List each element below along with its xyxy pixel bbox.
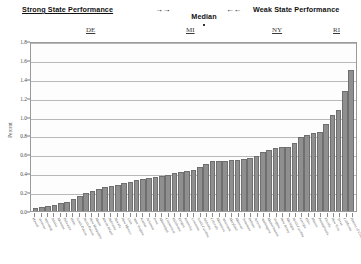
- bar: [71, 199, 77, 211]
- bar: [273, 148, 279, 211]
- x-axis-tick-label: Mississippi: [159, 217, 165, 264]
- y-axis-tick-label: 1.2: [20, 96, 27, 102]
- x-axis-tick-label: Alabama: [204, 217, 210, 264]
- x-axis-tick-label: Delaware: [64, 217, 70, 264]
- y-axis-tick-label: 1.4: [20, 77, 27, 83]
- bar: [83, 193, 89, 211]
- chart-page: Strong State Performance →→ Median ←← We…: [0, 0, 361, 264]
- bar: [77, 196, 83, 211]
- x-axis-tick-label: District of Columbia: [350, 217, 356, 264]
- x-axis-tick-label: Rhode Island: [102, 217, 108, 264]
- bar: [323, 124, 329, 211]
- bar: [165, 175, 171, 211]
- bar: [90, 191, 96, 211]
- bar: [285, 147, 291, 211]
- callout-de: DE: [86, 26, 95, 34]
- y-axis-tick-label: 0.0: [20, 209, 27, 215]
- bar: [342, 91, 348, 211]
- bar: [203, 164, 209, 211]
- bar: [159, 176, 165, 211]
- weak-performance-label: Weak State Performance: [253, 5, 339, 14]
- x-axis-tick-label: Pennsylvania: [318, 217, 324, 264]
- x-axis-tick-label: Tennessee: [242, 217, 248, 264]
- x-axis-tick-label: Wyoming: [45, 217, 51, 264]
- bar: [254, 156, 260, 211]
- bar: [229, 160, 235, 211]
- x-axis: HawaiiVermontWyomingAlaskaMontanaDelawar…: [30, 213, 357, 264]
- x-axis-tick-label: West Virginia: [134, 217, 140, 264]
- x-axis-labels: HawaiiVermontWyomingAlaskaMontanaDelawar…: [30, 217, 357, 264]
- bar: [109, 186, 115, 211]
- x-axis-tick-label: Nebraska: [108, 217, 114, 264]
- x-axis-tick-label: Louisiana: [191, 217, 197, 264]
- x-axis-tick-label: Virginia: [274, 217, 280, 264]
- x-axis-tick-label: Utah: [127, 217, 133, 264]
- bar: [311, 133, 317, 211]
- bar: [128, 182, 134, 211]
- x-axis-tick-label: North Carolina: [293, 217, 299, 264]
- bar: [222, 161, 228, 211]
- x-axis-tick-label: Minnesota: [216, 217, 222, 264]
- x-axis-tick-label: Indiana: [248, 217, 254, 264]
- bar: [64, 202, 70, 211]
- x-axis-tick-label: Arizona: [254, 217, 260, 264]
- x-axis-tick-label: New York: [331, 217, 337, 264]
- bar: [121, 183, 127, 211]
- callout-mi: MI: [186, 26, 195, 34]
- bar: [336, 110, 342, 211]
- median-label: Median: [191, 12, 216, 21]
- bar: [260, 152, 266, 211]
- bar: [178, 172, 184, 211]
- x-axis-tick-label: North Dakota: [83, 217, 89, 264]
- x-axis-tick-label: Kentucky: [184, 217, 190, 264]
- x-axis-tick-label: Colorado: [210, 217, 216, 264]
- bar: [197, 167, 203, 211]
- median-dot-icon: [203, 24, 205, 26]
- callout-ny: NY: [272, 26, 282, 34]
- x-axis-tick-label: Connecticut: [165, 217, 171, 264]
- bar: [292, 143, 298, 211]
- x-axis-tick-label: Maine: [95, 217, 101, 264]
- bar: [191, 170, 197, 211]
- y-axis-title: Percent: [7, 100, 13, 160]
- bar: [266, 150, 272, 211]
- x-axis-tick-label: South Dakota: [76, 217, 82, 264]
- y-axis-tick-label: 1.8: [20, 39, 27, 45]
- plot-area: [30, 42, 357, 212]
- bar-series: [31, 43, 356, 211]
- bar: [298, 137, 304, 211]
- bar: [39, 207, 45, 211]
- x-axis-tick-label: Georgia: [299, 217, 305, 264]
- x-axis-tick-label: Illinois: [312, 217, 318, 264]
- x-axis-tick-label: Oregon: [178, 217, 184, 264]
- y-axis-tick-label: 0.2: [20, 190, 27, 196]
- bar: [241, 159, 247, 211]
- bar: [153, 177, 159, 211]
- bar: [45, 206, 51, 211]
- x-axis-tick-label: Vermont: [38, 217, 44, 264]
- x-axis-tick-label: Hawaii: [32, 217, 38, 264]
- x-axis-tick-label: Maryland: [229, 217, 235, 264]
- y-axis: Percent 0.00.20.40.60.81.01.21.41.61.8: [0, 42, 30, 212]
- strong-performance-label: Strong State Performance: [22, 5, 113, 14]
- bar: [115, 185, 121, 211]
- callout-ri: RI: [333, 26, 340, 34]
- bar: [33, 208, 39, 211]
- arrow-left-icon: ←←: [226, 5, 241, 14]
- median-marker: Median: [185, 5, 223, 26]
- x-axis-tick-label: Texas: [337, 217, 343, 264]
- bar: [52, 205, 58, 211]
- performance-annotation-band: Strong State Performance →→ Median ←← We…: [0, 2, 361, 18]
- bar: [279, 147, 285, 211]
- y-axis-tick-label: 1.0: [20, 115, 27, 121]
- x-axis-tick-label: Kansas: [140, 217, 146, 264]
- bar: [172, 173, 178, 211]
- bar: [317, 132, 323, 211]
- bar: [235, 160, 241, 211]
- bar: [304, 135, 310, 211]
- bar: [184, 171, 190, 211]
- x-axis-tick-label: Washington: [261, 217, 267, 264]
- x-axis-tick-label: Oklahoma: [172, 217, 178, 264]
- x-axis-tick-label: South Carolina: [197, 217, 203, 264]
- arrow-right-icon: →→: [155, 5, 170, 14]
